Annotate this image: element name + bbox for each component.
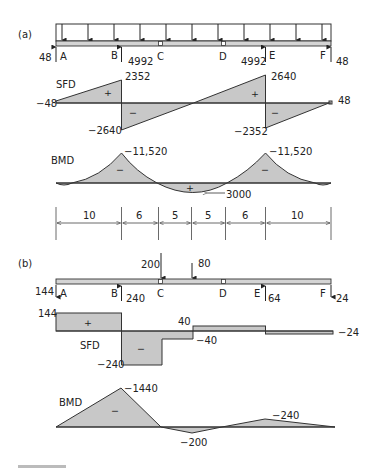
bmd-b-value-b: −1440 — [124, 383, 158, 394]
part-b: (b) 200 80 144 A B 240 C D E 64 F 24 — [18, 253, 359, 448]
bmd-sign: − — [116, 164, 124, 175]
beam-a — [56, 41, 331, 46]
sfd-a: SFD + − + − −48 2352 −2640 2640 −2352 48 — [36, 71, 351, 137]
bmd-a-value-b: −11,520 — [124, 146, 167, 157]
support-d-label: D — [219, 51, 227, 62]
part-a: (a) 48 A — [18, 24, 351, 240]
support-a-label: A — [60, 51, 67, 62]
load-80: 80 — [198, 258, 211, 269]
sfd-a-value-f: 48 — [338, 95, 351, 106]
sfd-b: 144 + − SFD −240 40 −40 −24 — [38, 308, 359, 370]
bmd-sign: − — [261, 164, 269, 175]
sfd-b-value-b: −240 — [97, 359, 124, 370]
reaction-b: 240 — [126, 293, 145, 304]
sfd-a-value-a: −48 — [36, 98, 57, 109]
load-200: 200 — [141, 259, 160, 270]
load-arrow-icon — [62, 24, 322, 40]
sfd-b-value-f: −24 — [338, 327, 359, 338]
part-b-label: (b) — [18, 258, 32, 269]
support-e-label: E — [269, 50, 275, 61]
dimension-label: 10 — [83, 210, 96, 221]
sfd-sign: − — [129, 107, 137, 118]
bmd-a-value-mid: 3000 — [226, 189, 251, 200]
reaction-e: 4992 — [241, 56, 266, 67]
sfd-sign: + — [84, 317, 92, 328]
support-b-label: B — [111, 50, 118, 61]
sfd-b-value-mid-top: 40 — [178, 316, 191, 327]
reaction-f: 48 — [336, 56, 349, 67]
sfd-sign: − — [271, 107, 279, 118]
bmd-b-value-mid: −200 — [180, 437, 207, 448]
hinge-d-icon — [222, 280, 226, 284]
beam-b — [56, 279, 331, 284]
reaction-b: 4992 — [128, 56, 153, 67]
bmd-sign: − — [111, 405, 119, 416]
hinge-d-icon — [222, 42, 226, 46]
sfd-a-title: SFD — [56, 79, 76, 90]
sfd-a-value-e-bottom: −2352 — [234, 126, 268, 137]
hinge-c-icon — [159, 42, 163, 46]
bmd-a-value-e: −11,520 — [269, 146, 312, 157]
support-b-label: B — [111, 288, 118, 299]
support-a-label: A — [60, 288, 67, 299]
reaction-a: 48 — [39, 52, 52, 63]
reaction-a: 144 — [35, 286, 54, 297]
sfd-b-value-a: 144 — [38, 308, 57, 319]
bmd-b: BMD − −1440 −200 −240 — [56, 383, 335, 448]
sfd-b-value-mid-bottom: −40 — [196, 335, 217, 346]
sfd-sign: − — [137, 343, 145, 354]
distributed-load — [56, 24, 331, 41]
support-f-label: F — [320, 288, 326, 299]
reaction-f: 24 — [336, 293, 349, 304]
part-a-label: (a) — [18, 29, 32, 40]
sfd-sign: + — [104, 87, 112, 98]
dimension-label: 6 — [136, 210, 142, 221]
bmd-a: BMD − + − −11,520 −11,520 3000 — [51, 146, 331, 200]
dimension-label: 6 — [242, 210, 248, 221]
sfd-a-value-e-top: 2640 — [271, 71, 296, 82]
dimension-label: 5 — [205, 210, 211, 221]
support-e-label: E — [254, 288, 260, 299]
bmd-a-title: BMD — [51, 155, 74, 166]
sfd-b-title: SFD — [80, 340, 100, 351]
beam-diagram-figure: (a) 48 A — [0, 0, 369, 468]
dimension-label: 10 — [291, 210, 304, 221]
hinge-c-icon — [159, 280, 163, 284]
bmd-sign: + — [186, 182, 194, 193]
support-f-label: F — [320, 50, 326, 61]
reaction-e: 64 — [268, 293, 281, 304]
dimension-line: 10 6 5 5 6 10 — [56, 207, 331, 240]
sfd-a-value-b-bottom: −2640 — [88, 125, 122, 136]
support-c-label: C — [157, 51, 164, 62]
sfd-a-value-b-top: 2352 — [125, 71, 150, 82]
support-c-label: C — [157, 288, 164, 299]
dimension-label: 5 — [172, 210, 178, 221]
bmd-b-title: BMD — [59, 397, 82, 408]
support-d-label: D — [219, 288, 227, 299]
bmd-b-value-e: −240 — [272, 410, 299, 421]
sfd-sign: + — [251, 88, 259, 99]
